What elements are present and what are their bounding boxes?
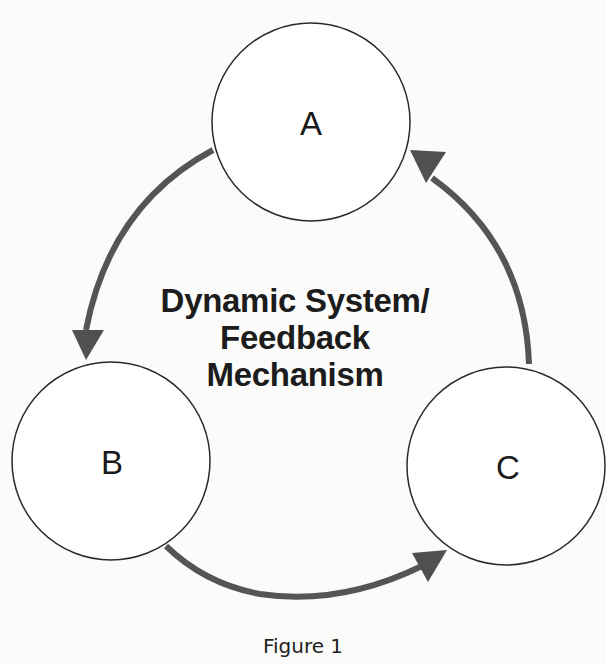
arrowhead-down-icon <box>72 330 104 360</box>
title-line-1: Dynamic System/ <box>120 282 470 319</box>
node-a-label: A <box>300 105 322 142</box>
feedback-diagram: A B C Dynamic System/ Feedback Mechanism… <box>0 0 606 664</box>
title-line-2: Feedback <box>120 319 470 356</box>
arrowhead-up-left-icon <box>410 150 446 183</box>
diagram-title: Dynamic System/ Feedback Mechanism <box>120 282 470 393</box>
figure-caption: Figure 1 <box>0 634 606 658</box>
node-b-label: B <box>101 444 123 481</box>
title-line-3: Mechanism <box>120 356 470 393</box>
arrow-b-to-c <box>166 546 447 597</box>
node-c-label: C <box>496 449 520 486</box>
